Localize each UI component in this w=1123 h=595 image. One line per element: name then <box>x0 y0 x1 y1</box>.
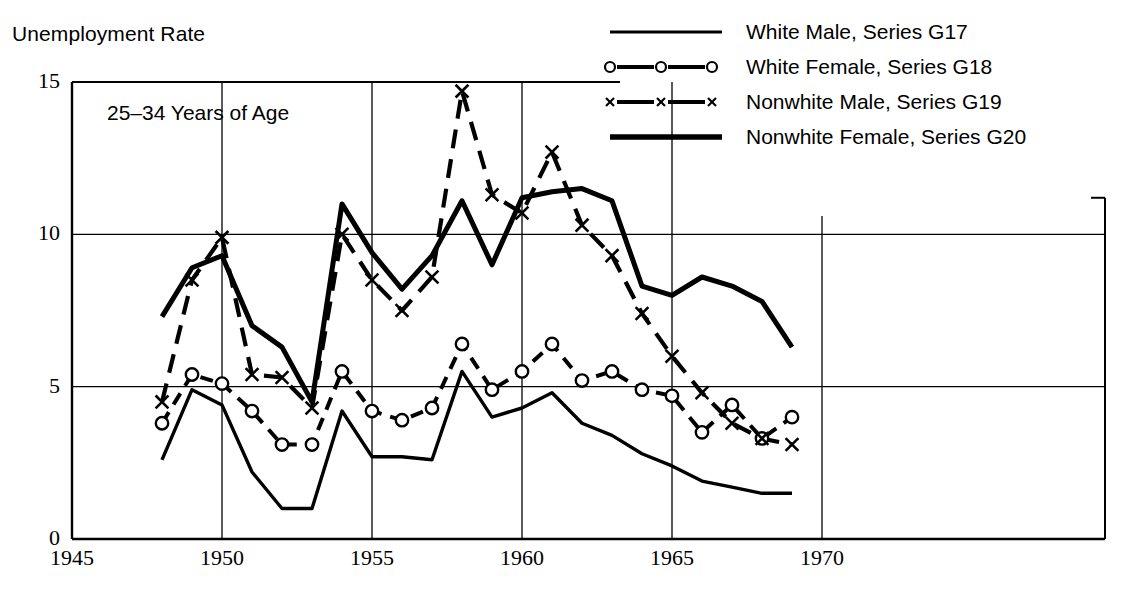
legend-swatch-dashed-circle-line <box>596 55 736 79</box>
chart-legend: White Male, Series G17 White Female, Ser… <box>596 14 1116 154</box>
y-tick-15: 15 <box>14 68 60 94</box>
legend-label-nonwhite-female: Nonwhite Female, Series G20 <box>736 125 1026 149</box>
x-tick-1970: 1970 <box>782 545 862 571</box>
legend-item-white-female: White Female, Series G18 <box>596 49 1116 84</box>
legend-swatch-solid-thick-line <box>596 125 736 149</box>
legend-label-nonwhite-male: Nonwhite Male, Series G19 <box>736 90 1002 114</box>
legend-item-white-male: White Male, Series G17 <box>596 14 1116 49</box>
chart-root: Unemployment Rate 25–34 Years of Age 051… <box>0 0 1123 595</box>
legend-item-nonwhite-male: Nonwhite Male, Series G19 <box>596 84 1116 119</box>
x-tick-1965: 1965 <box>632 545 712 571</box>
x-tick-1955: 1955 <box>332 545 412 571</box>
legend-label-white-female: White Female, Series G18 <box>736 55 992 79</box>
y-tick-10: 10 <box>14 220 60 246</box>
legend-swatch-solid-thin-line <box>596 20 736 44</box>
x-tick-1945: 1945 <box>32 545 112 571</box>
x-tick-1950: 1950 <box>182 545 262 571</box>
x-tick-1960: 1960 <box>482 545 562 571</box>
legend-label-white-male: White Male, Series G17 <box>736 20 968 44</box>
legend-swatch-dashed-x-line <box>596 90 736 114</box>
y-tick-5: 5 <box>14 373 60 399</box>
legend-item-nonwhite-female: Nonwhite Female, Series G20 <box>596 119 1116 154</box>
